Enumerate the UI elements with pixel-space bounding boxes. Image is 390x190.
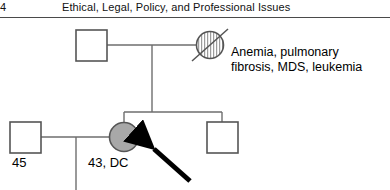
annotation-generation1-female-conditions: Anemia, pulmonary fibrosis, MDS, leukemi…	[231, 45, 362, 75]
symbol-male-generation1	[76, 30, 107, 61]
label-spouse-age: 45	[12, 155, 26, 170]
annotation-line-2: fibrosis, MDS, leukemia	[231, 60, 362, 75]
symbol-male-generation2	[207, 122, 238, 153]
pedigree-chart	[0, 0, 390, 190]
proband-arrow-icon	[154, 149, 190, 181]
symbol-female-proband-affected	[110, 123, 139, 152]
figure-page: 4 Ethical, Legal, Policy, and Profession…	[0, 0, 390, 190]
annotation-line-1: Anemia, pulmonary	[231, 45, 362, 60]
label-proband-age-diagnosis: 43, DC	[88, 155, 128, 170]
symbol-male-spouse-generation2	[10, 122, 41, 153]
